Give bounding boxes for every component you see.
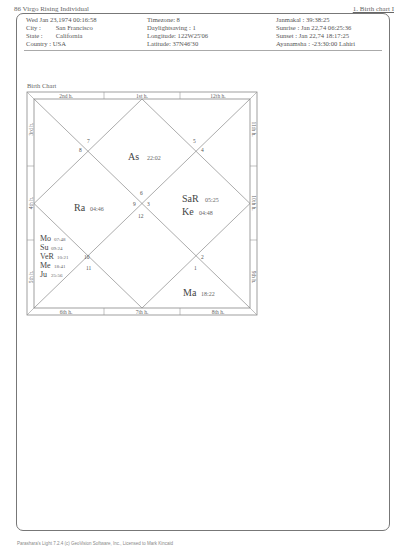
svg-text:04:46: 04:46 [90,206,104,212]
house-label-3rd: 3rd h. [28,122,34,135]
sign-number: 1 [194,265,197,271]
sign-number: 8 [79,147,82,153]
house-label-6th: 6th h. [60,309,73,315]
planet-jupiter: Ju 25:56 [40,270,63,279]
svg-text:VeR: VeR [40,252,54,261]
svg-text:18:22: 18:22 [201,291,215,297]
house-label-7th: 7th h. [136,309,149,315]
svg-text:As: As [128,151,139,162]
planet-ketu: Ke 04:48 [182,206,213,217]
sign-number: 6 [140,190,143,196]
svg-text:Ma: Ma [183,287,197,298]
svg-text:10:21: 10:21 [57,255,69,260]
sign-number: 2 [201,254,204,260]
svg-text:25:56: 25:56 [51,273,63,278]
planet-venus: VeR 10:21 [40,252,69,261]
svg-text:18:41: 18:41 [54,264,66,269]
house-label-10th: 10th h. [251,195,257,211]
sign-number: 12 [138,213,144,219]
birth-chart: 2nd h. 1st h. 12th h. 6th h. 7th h. 8th … [0,0,404,557]
planet-sun: Su 09:24 [40,243,63,252]
sign-number: 9 [133,201,136,207]
house-label-11th: 11th h. [251,121,257,137]
house-label-1st: 1st h. [136,93,149,99]
house-label-4th: 4th h. [28,196,34,209]
svg-text:Su: Su [40,243,48,252]
svg-text:07:48: 07:48 [54,237,66,242]
sign-number: 3 [147,201,150,207]
svg-text:04:48: 04:48 [199,210,213,216]
svg-text:22:02: 22:02 [147,155,161,161]
sign-number: 4 [201,147,204,153]
planet-ascendant: As 22:02 [128,151,161,162]
house-label-12th: 12th h. [210,93,226,99]
house-label-8th: 8th h. [212,309,225,315]
sign-number: 7 [87,138,90,144]
footer-copyright: Parashara's Light 7.2.4 (c) GeoVision So… [17,541,173,546]
planet-mars: Ma 18:22 [183,287,215,298]
planet-rahu: Ra 04:46 [74,202,104,213]
svg-text:Me: Me [40,261,51,270]
sign-number: 10 [84,254,90,260]
svg-text:Mo: Mo [40,234,51,243]
sign-number: 5 [193,138,196,144]
house-label-9th: 9th h. [251,271,257,284]
svg-text:Ke: Ke [182,206,194,217]
planet-mercury: Me 18:41 [40,261,66,270]
svg-text:SaR: SaR [182,193,199,204]
house-label-2nd: 2nd h. [59,93,73,99]
svg-text:09:24: 09:24 [51,246,63,251]
sign-number: 11 [86,265,92,271]
planet-saturn: SaR 05:25 [182,193,219,204]
house-label-5th: 5th h. [28,270,34,283]
planet-moon: Mo 07:48 [40,234,66,243]
svg-text:05:25: 05:25 [205,197,219,203]
svg-text:Ra: Ra [74,202,86,213]
svg-text:Ju: Ju [40,270,47,279]
